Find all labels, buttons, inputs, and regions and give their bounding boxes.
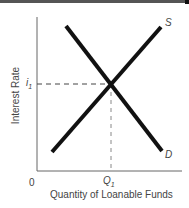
y-axis-label-text: Interest Rate: [10, 67, 21, 124]
origin-label: 0: [29, 177, 35, 188]
q-main: Q: [103, 175, 111, 186]
supply-curve: [52, 27, 161, 152]
demand-label: D: [165, 149, 172, 160]
i-sub: 1: [28, 83, 32, 90]
equilibrium-rate-label: i1: [26, 77, 32, 90]
supply-label: S: [165, 17, 172, 28]
equilibrium-quantity-label: Q1: [103, 175, 115, 188]
y-axis-label: Interest Rate: [10, 61, 21, 131]
x-axis-label: Quantity of Loanable Funds: [50, 189, 173, 200]
q-sub: 1: [111, 181, 115, 188]
